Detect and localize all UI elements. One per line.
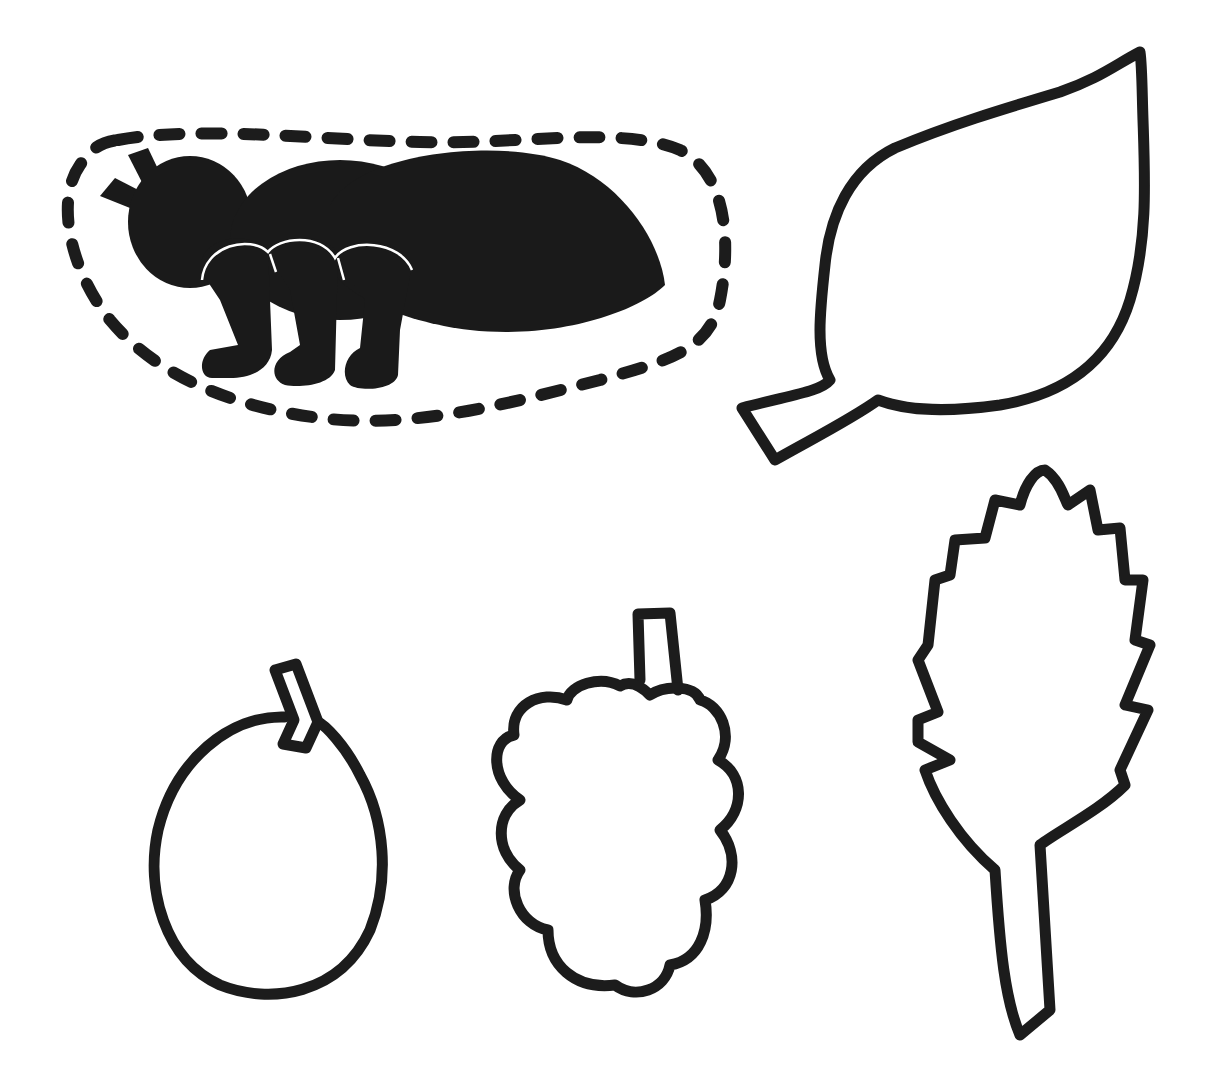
smooth-leaf-icon: [742, 52, 1145, 460]
drawing-canvas: [0, 0, 1209, 1082]
round-fruit-icon: [154, 664, 382, 994]
mulberry-icon: [497, 613, 739, 992]
ant-icon: [100, 148, 665, 389]
serrated-leaf-icon: [918, 470, 1150, 1035]
